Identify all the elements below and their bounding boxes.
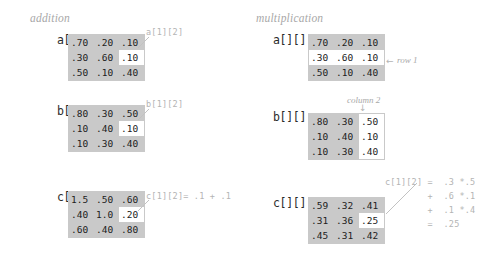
matrix-cell: .32 (334, 198, 359, 213)
matrix-cell: .40 (119, 136, 144, 151)
matrix-cell: .30 (69, 50, 94, 65)
matrix-cell-highlighted: .60 (334, 50, 359, 65)
matrix-cell-highlighted: .10 (119, 50, 144, 65)
matrix-cell: .70 (69, 35, 94, 50)
matrix-cell: .10 (334, 65, 359, 80)
annotation-multiplication-a-row: row 1 (397, 55, 417, 65)
matrix-cell: .31 (309, 213, 334, 228)
matrix-cell: .10 (69, 121, 94, 136)
matrix-cell: 1.0 (94, 207, 119, 222)
matrix-addition-b: .80 .30 .50 .10 .40 .10 .10 .30 .40 (68, 105, 145, 152)
matrix-cell: .41 (359, 198, 384, 213)
matrix-cell: .40 (69, 207, 94, 222)
matrix-cell: .10 (69, 136, 94, 151)
matrix-cell: .30 (94, 136, 119, 151)
matrix-cell-highlighted: .25 (359, 213, 384, 228)
matrix-cell: .60 (69, 222, 94, 237)
leader-line-addition-b (138, 108, 152, 122)
matrix-cell: .40 (94, 222, 119, 237)
matrix-cell-highlighted: .30 (309, 50, 334, 65)
matrix-cell: .50 (69, 65, 94, 80)
matrix-label-multiplication-b: b[][] (273, 110, 306, 124)
annotation-multiplication-c-line-0: c[1][2] = .3 *.5 (385, 177, 475, 187)
matrix-cell-highlighted: .10 (359, 129, 384, 144)
annotation-multiplication-c-line-3: = .25 (385, 219, 459, 229)
leader-line-addition-a (138, 36, 152, 50)
matrix-cell: .30 (334, 114, 359, 129)
matrix-cell: .40 (334, 129, 359, 144)
matrix-cell: .80 (69, 106, 94, 121)
left-arrow-icon: ← (386, 56, 394, 66)
matrix-cell: 1.5 (69, 192, 94, 207)
matrix-cell: .10 (359, 35, 384, 50)
matrix-cell: .40 (94, 121, 119, 136)
matrix-cell: .59 (309, 198, 334, 213)
down-arrow-icon: ↓ (359, 103, 367, 113)
matrix-multiplication-a: .70 .20 .10 .30 .60 .10 .50 .10 .40 (308, 34, 385, 81)
matrix-cell: .80 (309, 114, 334, 129)
matrix-cell-highlighted: .10 (359, 50, 384, 65)
matrix-cell: .30 (334, 144, 359, 159)
matrix-cell: .31 (334, 228, 359, 243)
matrix-cell: .80 (119, 222, 144, 237)
matrix-cell: .20 (94, 35, 119, 50)
matrix-addition-c: 1.5 .50 .60 .40 1.0 .20 .60 .40 .80 (68, 191, 145, 238)
matrix-cell: .42 (359, 228, 384, 243)
matrix-cell: .40 (359, 65, 384, 80)
matrix-cell: .50 (309, 65, 334, 80)
matrix-cell: .10 (94, 65, 119, 80)
matrix-label-multiplication-a: a[][] (273, 33, 306, 47)
matrix-cell-highlighted: .40 (359, 144, 384, 159)
matrix-cell: .50 (94, 192, 119, 207)
figure-canvas: addition a[][] .70 .20 .10 .30 .60 .10 .… (0, 0, 493, 255)
matrix-cell: .45 (309, 228, 334, 243)
annotation-addition-c: c[1][2]= .1 + .1 (146, 191, 231, 201)
matrix-cell-highlighted: .50 (359, 114, 384, 129)
matrix-multiplication-b: .80 .30 .50 .10 .40 .10 .10 .30 .40 (308, 113, 385, 160)
annotation-multiplication-c-line-2: + .1 *.4 (385, 205, 475, 215)
matrix-cell: .70 (309, 35, 334, 50)
annotation-multiplication-c-line-1: + .6 *.1 (385, 191, 475, 201)
matrix-cell-highlighted: .10 (119, 121, 144, 136)
matrix-cell: .40 (119, 65, 144, 80)
matrix-addition-a: .70 .20 .10 .30 .60 .10 .50 .10 .40 (68, 34, 145, 81)
leader-line-addition-c (138, 199, 152, 213)
matrix-cell: .30 (94, 106, 119, 121)
matrix-cell: .20 (334, 35, 359, 50)
section-title-addition: addition (30, 12, 70, 24)
matrix-label-multiplication-c: c[][] (273, 196, 306, 210)
matrix-cell: .36 (334, 213, 359, 228)
matrix-cell: .60 (94, 50, 119, 65)
matrix-cell: .10 (309, 129, 334, 144)
matrix-multiplication-c: .59 .32 .41 .31 .36 .25 .45 .31 .42 (308, 197, 385, 244)
section-title-multiplication: multiplication (256, 12, 323, 24)
matrix-cell: .10 (309, 144, 334, 159)
